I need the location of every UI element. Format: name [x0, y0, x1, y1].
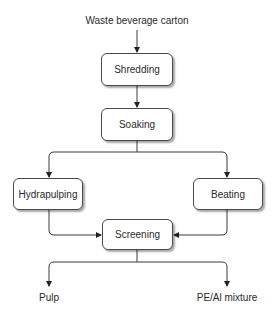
node-beating: Beating: [193, 178, 263, 210]
connector-lines: [0, 0, 278, 316]
node-shredding: Shredding: [101, 53, 173, 86]
edge-soaking-beating: [137, 152, 227, 177]
output-pe-al-mixture: PE/Al mixture: [197, 292, 258, 303]
node-screening: Screening: [102, 219, 173, 250]
node-hydrapulping: Hydrapulping: [13, 178, 83, 210]
input-label: Waste beverage carton: [85, 15, 188, 26]
flowchart-canvas: Waste beverage carton Shredding Soaking …: [0, 0, 278, 316]
edge-screening-pulp: [49, 262, 137, 286]
output-pulp: Pulp: [39, 292, 59, 303]
node-soaking: Soaking: [101, 108, 173, 141]
edge-hydrapulping-screening: [49, 210, 101, 235]
edge-screening-pe-al: [137, 262, 227, 286]
edge-beating-screening: [174, 210, 227, 235]
edge-soaking-hydrapulping: [49, 152, 137, 177]
